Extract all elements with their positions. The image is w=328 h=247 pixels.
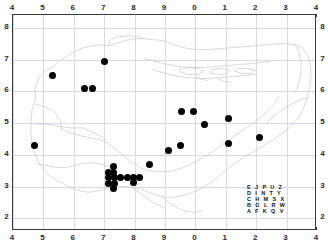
axis-top-label: 4 xyxy=(5,3,19,12)
gridline-horizontal xyxy=(13,28,315,29)
axis-bottom-tick xyxy=(316,227,317,230)
record-dot xyxy=(105,169,112,176)
gridline-horizontal xyxy=(13,91,315,92)
record-dot xyxy=(225,140,232,147)
axis-right-label: 4 xyxy=(318,149,327,158)
record-dot xyxy=(110,185,117,192)
axis-bottom-label: 1 xyxy=(218,233,232,242)
axis-top-label: 8 xyxy=(127,3,141,12)
record-dot xyxy=(101,58,108,65)
axis-bottom-label: 4 xyxy=(5,233,19,242)
grid-letter-key: E J P U ZD I N T YC H M S XB G L R WA F … xyxy=(247,184,286,214)
axis-bottom-label: 2 xyxy=(248,233,262,242)
axis-right-label: 5 xyxy=(318,117,327,126)
record-dot xyxy=(146,161,153,168)
axis-top-label: 6 xyxy=(66,3,80,12)
axis-top-label: 5 xyxy=(35,3,49,12)
axis-left-label: 6 xyxy=(2,85,11,94)
axis-right-label: 6 xyxy=(318,85,327,94)
gridline-vertical xyxy=(195,15,196,229)
axis-bottom-label: 5 xyxy=(35,233,49,242)
gridline-vertical xyxy=(13,15,14,229)
axis-left-label: 8 xyxy=(2,22,11,31)
axis-top-label: 0 xyxy=(187,3,201,12)
axis-top-tick xyxy=(316,14,317,17)
axis-bottom-label: 4 xyxy=(309,233,323,242)
axis-top-label: 4 xyxy=(309,3,323,12)
record-dot xyxy=(201,121,208,128)
axis-left-label: 7 xyxy=(2,54,11,63)
record-dot xyxy=(256,134,263,141)
gridline-vertical xyxy=(226,15,227,229)
grid-letter-row: A F K Q V xyxy=(247,208,286,214)
axis-top-label: 3 xyxy=(279,3,293,12)
axis-top-label: 2 xyxy=(248,3,262,12)
axis-right-label: 3 xyxy=(318,181,327,190)
axis-bottom-label: 7 xyxy=(96,233,110,242)
record-dot xyxy=(117,174,124,181)
gridline-vertical xyxy=(165,15,166,229)
axis-bottom-label: 9 xyxy=(157,233,171,242)
gridline-horizontal xyxy=(13,155,315,156)
record-dot xyxy=(178,108,185,115)
axis-left-label: 3 xyxy=(2,181,11,190)
record-dot xyxy=(89,85,96,92)
axis-left-label: 2 xyxy=(2,212,11,221)
axis-bottom-label: 6 xyxy=(66,233,80,242)
record-dot xyxy=(31,142,38,149)
axis-left-label: 5 xyxy=(2,117,11,126)
gridline-vertical xyxy=(135,15,136,229)
gridline-horizontal xyxy=(13,60,315,61)
record-dot xyxy=(49,72,56,79)
axis-right-label: 2 xyxy=(318,212,327,221)
record-dot xyxy=(165,147,172,154)
record-dot xyxy=(225,115,232,122)
axis-bottom-label: 8 xyxy=(127,233,141,242)
record-dot xyxy=(81,85,88,92)
gridline-horizontal xyxy=(13,123,315,124)
axis-bottom-label: 0 xyxy=(187,233,201,242)
record-dot xyxy=(136,174,143,181)
gridline-horizontal xyxy=(13,218,315,219)
axis-top-label: 9 xyxy=(157,3,171,12)
record-dot xyxy=(177,142,184,149)
gridline-vertical xyxy=(104,15,105,229)
axis-left-label: 4 xyxy=(2,149,11,158)
gridline-vertical xyxy=(287,15,288,229)
gridline-vertical xyxy=(43,15,44,229)
axis-top-label: 7 xyxy=(96,3,110,12)
gridline-vertical xyxy=(74,15,75,229)
distribution-map: 45678901234 45678901234 8765432 8765432 xyxy=(0,0,328,247)
axis-right-label: 8 xyxy=(318,22,327,31)
axis-right-label: 7 xyxy=(318,54,327,63)
axis-bottom-label: 3 xyxy=(279,233,293,242)
record-dot xyxy=(130,179,137,186)
axis-top-label: 1 xyxy=(218,3,232,12)
